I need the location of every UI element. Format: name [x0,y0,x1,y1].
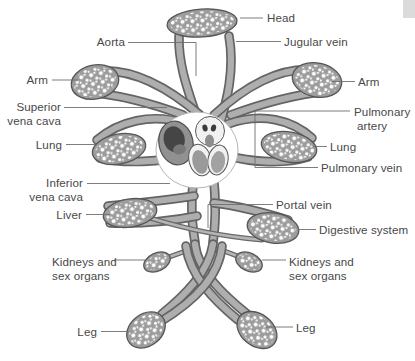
kidneys-left-label-line1: Kidneys and [52,255,117,268]
diagram-canvas: Head Jugular vein Aorta Arm Arm Superior… [0,0,415,361]
label-jugular-vein: Jugular vein [236,35,348,48]
leg-right-label: Leg [296,321,316,334]
lung-right-label: Lung [330,140,356,153]
pulmonary-artery-label-line2: artery [357,119,387,132]
circulatory-system-diagram: Head Jugular vein Aorta Arm Arm Superior… [0,0,415,361]
label-arm-left: Arm [26,73,78,86]
label-leg-left: Leg [77,325,129,338]
inferior-vena-cava-label-line1: Inferior [46,176,83,189]
label-lung-right: Lung [313,140,356,153]
kidneys-left-label-line2: sex organs [52,269,110,282]
portal-vein-label: Portal vein [276,198,332,211]
lung-left-label: Lung [36,138,62,151]
kidney-right-capillary-bed [233,248,266,276]
heart [155,112,238,188]
inferior-vena-cava-label-line2: vena cava [29,190,83,203]
gray-corner-block [403,0,415,18]
kidney-left-capillary-bed [141,248,174,276]
label-lung-left: Lung [36,138,95,151]
aorta-label: Aorta [97,35,126,48]
kidneys-right-label-line2: sex organs [289,269,347,282]
superior-vena-cava-label-line2: vena cava [7,114,61,127]
label-digestive-system: Digestive system [298,223,408,236]
digestive-system-label: Digestive system [319,223,408,236]
jugular-vein-label: Jugular vein [284,35,348,48]
arm-left-label: Arm [26,73,48,86]
kidneys-right-label-line1: Kidneys and [289,255,354,268]
label-kidneys-left: Kidneys and sex organs [52,255,145,282]
pulmonary-vein-label: Pulmonary vein [321,161,402,174]
leg-left-label: Leg [77,325,97,338]
pulmonary-artery-label-line1: Pulmonary [354,105,410,118]
label-liver: Liver [56,208,110,221]
arm-right-label: Arm [358,75,380,88]
label-head: Head [240,11,295,24]
liver-label: Liver [56,208,82,221]
superior-vena-cava-label-line1: Superior [16,100,61,113]
head-label: Head [267,11,295,24]
label-kidneys-right: Kidneys and sex organs [262,255,354,282]
